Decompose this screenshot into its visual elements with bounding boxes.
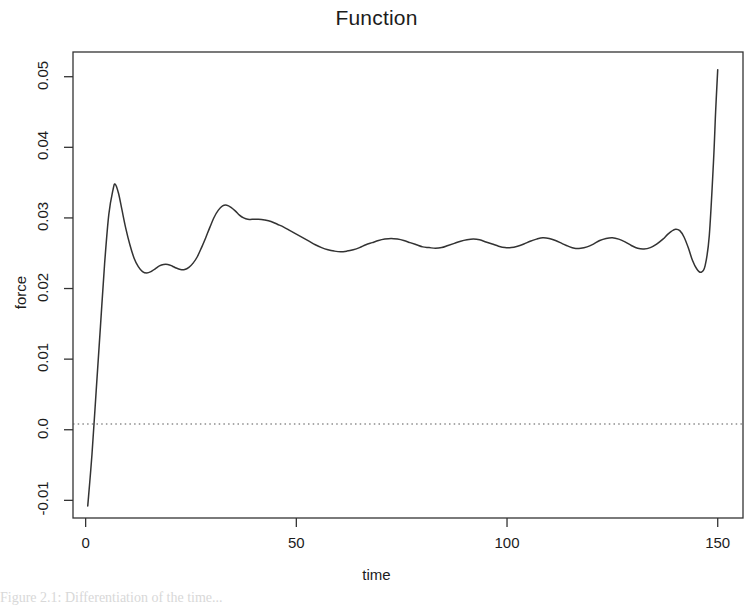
x-tick-label-0: 0 [56, 534, 116, 551]
y-tick-label-0.01: 0.01 [34, 328, 51, 388]
plot-frame [73, 52, 743, 518]
y-tick-label-0.05: 0.05 [34, 45, 51, 105]
force-series-line [88, 70, 718, 506]
y-tick-label-0.02: 0.02 [34, 257, 51, 317]
y-tick-label-0.03: 0.03 [34, 186, 51, 246]
y-tick-label-0.0: 0.0 [34, 398, 51, 458]
figure-caption-fragment: Figure 2.1: Differentiation of the time.… [0, 590, 753, 605]
y-axis-title: force [12, 253, 29, 333]
x-tick-label-150: 150 [688, 534, 748, 551]
x-tick-label-100: 100 [477, 534, 537, 551]
x-axis-ticks [86, 518, 718, 527]
figure-container: Function 050100150 -0.010.00.010.020.030… [0, 0, 753, 605]
x-axis-title: time [0, 566, 753, 583]
y-axis-ticks [64, 77, 73, 501]
plot-canvas [0, 0, 753, 605]
y-tick-label-0.04: 0.04 [34, 116, 51, 176]
x-tick-label-50: 50 [266, 534, 326, 551]
y-tick-label--0.01: -0.01 [34, 469, 51, 529]
